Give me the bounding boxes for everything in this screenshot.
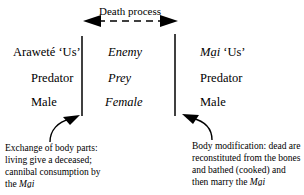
right-note: Body modification: dead are reconstitute… [192, 140, 302, 188]
right-arrowhead-icon [160, 15, 178, 27]
right-curved-arrow [192, 118, 212, 140]
left-curved-arrow [50, 119, 70, 142]
right-title-suffix: ‘Us’ [220, 45, 245, 59]
right-title: Ma̱i ‘Us’ [200, 45, 245, 59]
right-note-emph: Ma̱i [250, 177, 265, 187]
left-title: Araweté ‘Us’ [13, 45, 81, 59]
middle-role: Prey [108, 71, 131, 85]
middle-gender: Female [105, 95, 142, 109]
left-note: Exchange of body parts: living give a de… [5, 142, 101, 190]
right-note-text: Body modification: dead are reconstitute… [192, 141, 300, 187]
right-title-name: Ma̱i [200, 45, 220, 59]
left-note-emph: Ma̱i [19, 179, 34, 189]
left-role: Predator [31, 71, 73, 85]
right-role: Predator [200, 71, 242, 85]
middle-title: Enemy [108, 45, 142, 59]
death-process-label: Death process [99, 4, 161, 18]
left-gender: Male [31, 95, 57, 109]
right-gender: Male [200, 95, 226, 109]
